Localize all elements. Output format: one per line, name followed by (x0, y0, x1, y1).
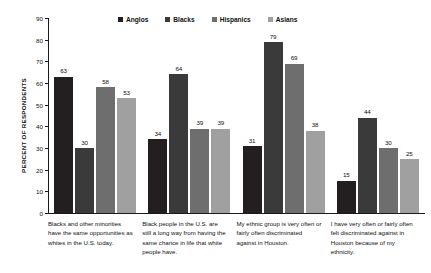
bar[interactable] (306, 131, 325, 213)
bar-chart: PERCENT OF RESPONDENTS AnglosBlacksHispa… (0, 0, 431, 273)
legend-swatch-icon (268, 17, 273, 22)
bar-value-label: 30 (385, 140, 392, 146)
legend-item-anglos: Anglos (118, 16, 148, 23)
bar-item[interactable]: 34 (148, 18, 167, 213)
bar-value-label: 39 (217, 120, 224, 126)
bar-group: 34643939 (142, 18, 236, 214)
bar-value-label: 79 (270, 34, 277, 40)
y-axis-title: PERCENT OF RESPONDENTS (20, 51, 27, 201)
bar-value-label: 53 (123, 90, 130, 96)
bar-value-label: 58 (102, 79, 109, 85)
bar-groups: 63305853346439393179693815443025 (48, 18, 425, 214)
bar-item[interactable]: 30 (379, 18, 398, 213)
y-tick-label: 10 (36, 188, 43, 195)
bar-item[interactable]: 30 (75, 18, 94, 213)
y-tick-label: 30 (36, 145, 43, 152)
bar-value-label: 69 (291, 55, 298, 61)
bar[interactable] (264, 42, 283, 213)
bar[interactable] (211, 129, 230, 214)
bar-item[interactable]: 44 (358, 18, 377, 213)
bar-value-label: 39 (196, 120, 203, 126)
bars: 63305853 (48, 18, 142, 213)
y-tick-label: 60 (36, 80, 43, 87)
bar-item[interactable]: 39 (190, 18, 209, 213)
bar-item[interactable]: 58 (96, 18, 115, 213)
category-label: Blacks and other minorities have the sam… (48, 219, 142, 257)
bar-value-label: 34 (154, 131, 161, 137)
legend-item-hispanics: Hispanics (212, 16, 251, 23)
y-tick-label: 70 (36, 58, 43, 65)
bar-item[interactable]: 79 (264, 18, 283, 213)
y-tick-label: 50 (36, 101, 43, 108)
bar-item[interactable]: 25 (400, 18, 419, 213)
legend-swatch-icon (118, 17, 123, 22)
bar[interactable] (96, 87, 115, 213)
bar-value-label: 15 (343, 172, 350, 178)
bars: 31796938 (237, 18, 331, 213)
bar-item[interactable]: 64 (169, 18, 188, 213)
bar[interactable] (285, 64, 304, 214)
bar[interactable] (358, 118, 377, 213)
bar-item[interactable]: 38 (306, 18, 325, 213)
bar[interactable] (169, 74, 188, 213)
y-tick-label: 0 (40, 210, 43, 217)
y-tick-label: 20 (36, 166, 43, 173)
bar[interactable] (400, 159, 419, 213)
bar[interactable] (243, 146, 262, 213)
category-labels: Blacks and other minorities have the sam… (48, 219, 425, 257)
legend-label: Anglos (126, 16, 148, 23)
category-label: I have very often or fairly often felt d… (331, 219, 425, 257)
legend-label: Blacks (173, 16, 194, 23)
plot-area: 9080706050403020100 63305853346439393179… (48, 18, 425, 214)
legend-swatch-icon (212, 17, 217, 22)
bar-value-label: 44 (364, 109, 371, 115)
y-tick-label: 40 (36, 123, 43, 130)
bar-value-label: 31 (249, 138, 256, 144)
bar-group: 15443025 (331, 18, 425, 214)
legend-label: Hispanics (220, 16, 251, 23)
bar[interactable] (190, 129, 209, 214)
bar-item[interactable]: 63 (54, 18, 73, 213)
bar-item[interactable]: 53 (117, 18, 136, 213)
bar-value-label: 38 (312, 122, 319, 128)
bar-item[interactable]: 39 (211, 18, 230, 213)
bar-value-label: 63 (60, 68, 67, 74)
chart-legend: AnglosBlacksHispanicsAsians (118, 16, 297, 23)
bar-item[interactable]: 31 (243, 18, 262, 213)
bar-value-label: 64 (175, 66, 182, 72)
bar-item[interactable]: 15 (337, 18, 356, 213)
bars: 15443025 (331, 18, 425, 213)
bar-value-label: 30 (81, 140, 88, 146)
legend-label: Asians (276, 16, 298, 23)
bar[interactable] (117, 98, 136, 213)
category-label: My ethnic group is very often or fairly … (237, 219, 331, 257)
bar-group: 31796938 (237, 18, 331, 214)
legend-item-asians: Asians (268, 16, 298, 23)
legend-item-blacks: Blacks (165, 16, 194, 23)
bar[interactable] (148, 139, 167, 213)
y-tick-label: 80 (36, 36, 43, 43)
bar[interactable] (379, 148, 398, 213)
bar-value-label: 25 (406, 151, 413, 157)
bars: 34643939 (142, 18, 236, 213)
bar-group: 63305853 (48, 18, 142, 214)
bar[interactable] (75, 148, 94, 213)
bar-item[interactable]: 69 (285, 18, 304, 213)
category-label: Black people in the U.S. are still a lon… (142, 219, 236, 257)
legend-swatch-icon (165, 17, 170, 22)
bar[interactable] (54, 77, 73, 214)
y-tick-label: 90 (36, 15, 43, 22)
bar[interactable] (337, 181, 356, 214)
